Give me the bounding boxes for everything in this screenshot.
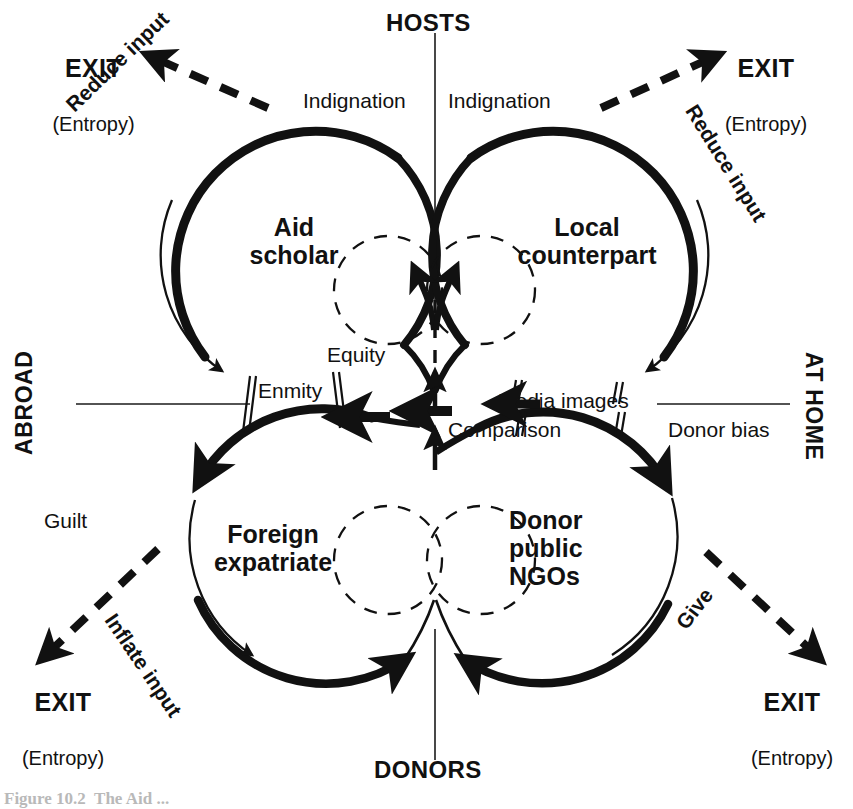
exit-bottom-right-sub: (Entropy) (733, 748, 851, 769)
flow-indignation-left: Indignation (303, 90, 406, 112)
exit-arrow-bottom-right (706, 552, 818, 657)
flow-equity: Equity (327, 344, 385, 366)
pole-at-home: AT HOME (802, 352, 826, 461)
flow-indignation-right: Indignation (448, 90, 551, 112)
figure-canvas: HOSTS DONORS ABROAD AT HOME Aid scholar … (0, 0, 853, 809)
exit-bottom-right-label: EXIT (733, 689, 851, 715)
exit-top-left-sub: (Entropy) (36, 114, 151, 135)
pole-abroad: ABROAD (12, 350, 36, 455)
node-foreign-expatriate: Foreign expatriate (173, 520, 373, 576)
flow-enmity: Enmity (258, 380, 322, 402)
pole-donors: DONORS (374, 757, 482, 782)
pole-hosts: HOSTS (386, 10, 471, 35)
node-donor-public-ngos: Donor public NGOs (509, 506, 649, 590)
exit-arrow-top-left (150, 56, 268, 108)
flow-guilt: Guilt (44, 510, 87, 532)
flow-comparison: Comparison (448, 419, 561, 441)
exit-bottom-right: EXIT (Entropy) (733, 655, 851, 803)
exit-top-right-sub: (Entropy) (706, 114, 826, 135)
flow-donor-bias: Donor bias (668, 419, 770, 441)
node-local-counterpart: Local counterpart (487, 213, 687, 269)
node-aid-scholar: Aid scholar (214, 213, 374, 269)
exit-bottom-left: EXIT (Entropy) (4, 655, 122, 803)
flow-media-images: Media images (498, 390, 629, 412)
exit-top-right-label: EXIT (706, 55, 826, 81)
figure-caption: Figure 10.2 The Aid ... (4, 789, 169, 809)
exit-bottom-left-sub: (Entropy) (4, 748, 122, 769)
exit-bottom-left-label: EXIT (4, 689, 122, 715)
